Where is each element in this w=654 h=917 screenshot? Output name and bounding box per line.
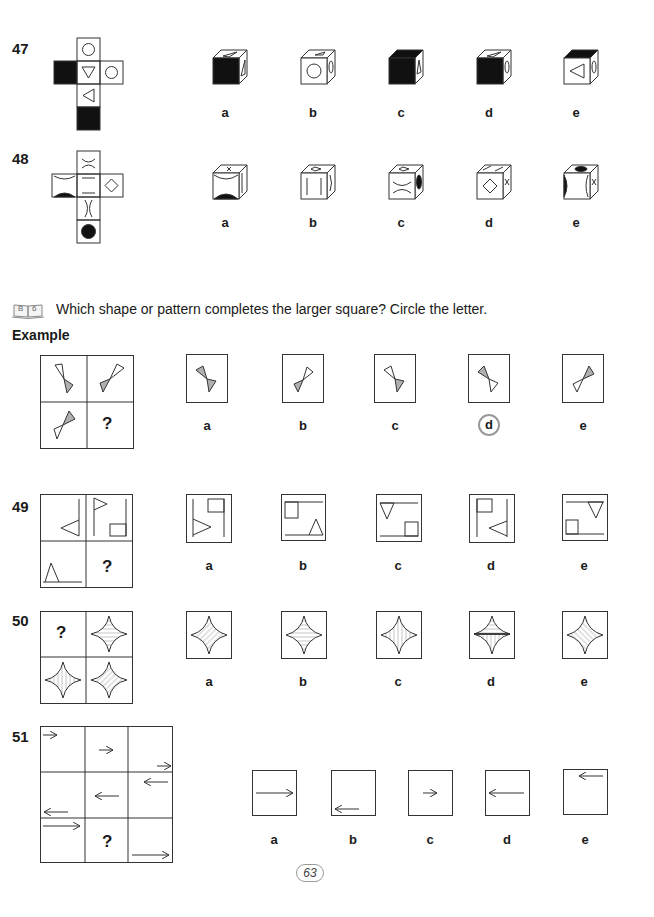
q47-option-e-label[interactable]: e — [566, 105, 586, 120]
q49-option-d[interactable] — [469, 494, 517, 546]
q49-missing-mark: ? — [102, 557, 112, 577]
q48-option-e-label[interactable]: e — [566, 215, 586, 230]
q48-option-e-cube[interactable] — [564, 165, 604, 205]
q51-option-d[interactable] — [485, 770, 533, 820]
q51-option-b[interactable] — [331, 770, 379, 820]
example-option-d[interactable] — [468, 354, 512, 404]
q47-option-b-cube[interactable] — [301, 50, 341, 90]
q48-option-a-cube[interactable] — [213, 165, 253, 205]
q50-grid — [40, 611, 135, 706]
q49-option-e[interactable] — [562, 494, 610, 546]
q50-option-a[interactable] — [186, 611, 234, 661]
question-number-51: 51 — [12, 728, 29, 745]
example-option-e-label[interactable]: e — [573, 418, 593, 433]
example-option-a-label[interactable]: a — [197, 418, 217, 433]
example-missing-mark: ? — [102, 414, 112, 434]
q48-option-d-cube[interactable] — [477, 165, 517, 205]
q50-option-d[interactable] — [469, 611, 517, 661]
question-number-49: 49 — [12, 498, 29, 515]
q49-option-c[interactable] — [376, 494, 424, 546]
q49-option-b-label[interactable]: b — [293, 558, 313, 573]
q49-option-e-label[interactable]: e — [574, 558, 594, 573]
example-title: Example — [12, 327, 70, 343]
badge-text-6: 6 — [32, 304, 36, 313]
instruction-text: Which shape or pattern completes the lar… — [56, 301, 487, 317]
q50-option-e-label[interactable]: e — [574, 674, 594, 689]
q49-option-d-label[interactable]: d — [481, 558, 501, 573]
q50-option-b-label[interactable]: b — [293, 674, 313, 689]
q49-option-a-label[interactable]: a — [199, 558, 219, 573]
example-option-b[interactable] — [282, 354, 326, 404]
question-number-47: 47 — [12, 40, 29, 57]
q51-option-a-label[interactable]: a — [264, 832, 284, 847]
page-number: 63 — [296, 864, 324, 882]
q51-option-d-label[interactable]: d — [497, 832, 517, 847]
example-option-d-label-circled[interactable]: d — [478, 414, 500, 436]
q50-option-b[interactable] — [281, 611, 329, 661]
example-option-c-label[interactable]: c — [385, 418, 405, 433]
question-number-48: 48 — [12, 150, 29, 167]
q48-option-c-label[interactable]: c — [391, 215, 411, 230]
q49-option-b[interactable] — [281, 494, 329, 546]
example-grid — [40, 355, 135, 450]
question-number-50: 50 — [12, 612, 29, 629]
q51-option-e-label[interactable]: e — [575, 832, 595, 847]
q47-option-a-label[interactable]: a — [215, 105, 235, 120]
q47-option-e-cube[interactable] — [564, 50, 604, 90]
badge-text-b: B — [18, 304, 23, 313]
q50-option-c-label[interactable]: c — [388, 674, 408, 689]
q48-option-d-label[interactable]: d — [479, 215, 499, 230]
example-option-c[interactable] — [374, 354, 418, 404]
q51-option-b-label[interactable]: b — [343, 832, 363, 847]
q50-option-d-label[interactable]: d — [481, 674, 501, 689]
q47-option-d-cube[interactable] — [477, 50, 517, 90]
cube-net-47 — [52, 38, 132, 138]
cube-net-48 — [52, 151, 132, 251]
q47-option-c-cube[interactable] — [389, 50, 429, 90]
q47-option-a-cube[interactable] — [213, 50, 253, 90]
q51-option-e[interactable] — [563, 769, 611, 819]
q50-missing-mark: ? — [56, 623, 66, 643]
example-option-b-label[interactable]: b — [293, 418, 313, 433]
example-option-e[interactable] — [562, 354, 606, 404]
q51-option-c[interactable] — [408, 770, 456, 820]
q50-option-e[interactable] — [562, 611, 610, 661]
q47-option-c-label[interactable]: c — [391, 105, 411, 120]
q47-option-d-label[interactable]: d — [479, 105, 499, 120]
example-option-a[interactable] — [186, 354, 230, 404]
q50-option-c[interactable] — [376, 611, 424, 661]
book-icon: B 6 — [12, 303, 46, 323]
q49-grid — [40, 494, 135, 589]
q49-option-a[interactable] — [186, 494, 234, 546]
q48-option-b-label[interactable]: b — [303, 215, 323, 230]
q48-option-c-cube[interactable] — [389, 165, 429, 205]
q50-option-a-label[interactable]: a — [199, 674, 219, 689]
q47-option-b-label[interactable]: b — [303, 105, 323, 120]
q51-missing-mark: ? — [102, 832, 112, 852]
q51-option-a[interactable] — [252, 770, 300, 820]
q49-option-c-label[interactable]: c — [388, 558, 408, 573]
q51-option-c-label[interactable]: c — [420, 832, 440, 847]
q48-option-a-label[interactable]: a — [215, 215, 235, 230]
q48-option-b-cube[interactable] — [301, 165, 341, 205]
